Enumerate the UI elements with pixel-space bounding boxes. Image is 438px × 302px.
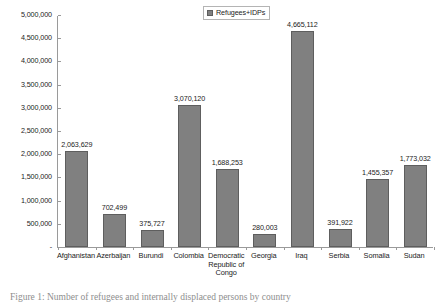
bar-column[interactable]: 1,773,032 [404, 165, 427, 247]
x-axis-tick-mark [171, 247, 172, 250]
y-axis-tick-label: 1,500,000 [21, 172, 52, 181]
x-axis-category-label: Georgia [245, 252, 283, 261]
chart-plot-area: 2,063,629702,499375,7273,070,1201,688,25… [57, 16, 433, 248]
bar-value-label: 2,063,629 [61, 140, 92, 149]
bar-value-label: 391,922 [327, 218, 352, 227]
x-axis-category-label: Afghanistan [57, 252, 95, 261]
y-axis-tick-label: 2,500,000 [21, 126, 52, 135]
bar-value-label: 280,003 [252, 223, 277, 232]
bar-column[interactable]: 702,499 [103, 214, 126, 247]
x-axis-category-label-line: Iraq [283, 252, 321, 261]
x-axis-tick-mark [434, 247, 435, 250]
bar-column[interactable]: 1,455,357 [366, 179, 389, 247]
x-axis-tick-mark [133, 247, 134, 250]
x-axis-category-label-line: Burundi [132, 252, 170, 261]
legend-swatch-refugees-idps [207, 10, 213, 16]
x-axis-category-label-line: Sudan [395, 252, 433, 261]
bar-value-label: 702,499 [102, 203, 127, 212]
bar-column[interactable]: 1,688,253 [216, 169, 239, 247]
bar[interactable] [366, 179, 389, 247]
bar-value-label: 3,070,120 [174, 94, 205, 103]
bar-value-label: 1,455,357 [362, 168, 393, 177]
y-axis-tick-label: 2,000,000 [21, 149, 52, 158]
bar-series-refugees-idps: 2,063,629702,499375,7273,070,1201,688,25… [58, 16, 433, 247]
y-axis-tick-label: - [50, 242, 52, 251]
y-axis-tick-label: 4,500,000 [21, 33, 52, 42]
x-axis-category-label: Sudan [395, 252, 433, 261]
x-axis-category-label: Colombia [170, 252, 208, 261]
y-axis-tick-mark [58, 15, 61, 16]
y-axis-tick-label: 1,000,000 [21, 196, 52, 205]
x-axis-category-label-line: Azerbaijan [95, 252, 133, 261]
x-axis-category-label-line: Afghanistan [57, 252, 95, 261]
x-axis-tick-mark [396, 247, 397, 250]
x-axis-tick-mark [321, 247, 322, 250]
figure-caption: Figure 1: Number of refugees and interna… [10, 292, 430, 302]
x-axis-category-label: Azerbaijan [95, 252, 133, 261]
x-axis-category-label: Somalia [358, 252, 396, 261]
bar[interactable] [253, 234, 276, 247]
x-axis-category-label-line: Colombia [170, 252, 208, 261]
x-axis-tick-mark [246, 247, 247, 250]
x-axis-category-label: Iraq [283, 252, 321, 261]
x-axis-category-label-line: Somalia [358, 252, 396, 261]
bar-value-label: 4,665,112 [287, 20, 318, 29]
y-axis-tick-mark [58, 108, 61, 109]
y-axis-tick-mark [58, 224, 61, 225]
bar-column[interactable]: 4,665,112 [291, 31, 314, 247]
x-axis-tick-mark [96, 247, 97, 250]
y-axis-tick-label: 500,000 [27, 219, 52, 228]
bar-column[interactable]: 3,070,120 [178, 105, 201, 247]
x-axis-tick-mark [58, 247, 59, 250]
x-axis-category-label: Serbia [320, 252, 358, 261]
y-axis-tick-label: 3,500,000 [21, 80, 52, 89]
y-axis-tick-mark [58, 131, 61, 132]
x-axis-tick-mark [284, 247, 285, 250]
x-axis-category-label: Burundi [132, 252, 170, 261]
y-axis-tick-label: 5,000,000 [21, 10, 52, 19]
bar-column[interactable]: 280,003 [253, 234, 276, 247]
x-axis-category-label: DemocraticRepublic ofCongo [207, 252, 245, 278]
bar-value-label: 1,688,253 [212, 158, 243, 167]
x-axis-tick-mark [208, 247, 209, 250]
bar[interactable] [404, 165, 427, 247]
x-axis-category-label-line: Georgia [245, 252, 283, 261]
y-axis-tick-label: 4,000,000 [21, 56, 52, 65]
bar[interactable] [103, 214, 126, 247]
x-axis-category-label-line: Congo [207, 269, 245, 278]
bar[interactable] [178, 105, 201, 247]
bar-value-label: 375,727 [139, 219, 164, 228]
bar[interactable] [329, 229, 352, 247]
x-axis-category-label-line: Serbia [320, 252, 358, 261]
y-axis-tick-mark [58, 85, 61, 86]
bar[interactable] [141, 230, 164, 247]
y-axis-tick-mark [58, 177, 61, 178]
bar[interactable] [216, 169, 239, 247]
y-axis-tick-mark [58, 38, 61, 39]
y-axis-tick-mark [58, 201, 61, 202]
bar-value-label: 1,773,032 [400, 154, 431, 163]
bar[interactable] [65, 151, 88, 247]
bar-column[interactable]: 391,922 [329, 229, 352, 247]
x-axis-tick-mark [359, 247, 360, 250]
y-axis-tick-label: 3,000,000 [21, 103, 52, 112]
bar-column[interactable]: 375,727 [141, 230, 164, 247]
y-axis-tick-mark [58, 61, 61, 62]
bar-column[interactable]: 2,063,629 [65, 151, 88, 247]
y-axis-tick-mark [58, 154, 61, 155]
bar[interactable] [291, 31, 314, 247]
